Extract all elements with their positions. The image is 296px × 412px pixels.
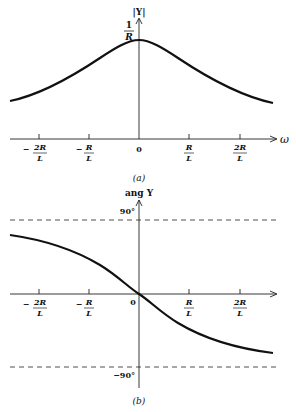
panel-a-y-axis-label: |Y|	[133, 7, 146, 18]
panel-b-caption: (b)	[133, 396, 146, 406]
svg-text:L: L	[185, 308, 192, 318]
svg-text:L: L	[36, 308, 43, 318]
svg-text:R: R	[85, 297, 93, 307]
svg-text:L: L	[236, 308, 243, 318]
svg-text:2R: 2R	[233, 142, 247, 152]
svg-text:R: R	[185, 297, 193, 307]
svg-text:L: L	[236, 153, 243, 163]
svg-text:−: −	[76, 299, 83, 309]
panel-b-tick-label: − 2R L	[23, 297, 47, 318]
panel-b-tick-label: − R L	[76, 297, 94, 318]
svg-text:R: R	[185, 142, 193, 152]
svg-text:0: 0	[130, 297, 136, 307]
svg-text:L: L	[36, 153, 43, 163]
figure: |Y| 1 R ω − 2R L − R L 0 R	[0, 0, 296, 412]
svg-text:L: L	[85, 153, 92, 163]
svg-text:−: −	[76, 144, 83, 154]
panel-b-lower-asymptote-label: −90°	[113, 370, 135, 380]
panel-b-tick-label: 0	[130, 297, 136, 307]
panel-a-tick-label: − R L	[76, 142, 94, 163]
svg-text:0: 0	[136, 144, 142, 154]
panel-a-tick-label: − 2R L	[23, 142, 47, 163]
panel-a-tick-label: R L	[184, 142, 194, 163]
panel-a-peak-numerator: 1	[126, 20, 132, 30]
panel-b-upper-asymptote-label: 90°	[120, 206, 135, 216]
svg-text:L: L	[85, 308, 92, 318]
svg-text:−: −	[23, 144, 30, 154]
svg-text:2R: 2R	[33, 142, 47, 152]
panel-b-phase-plot: ang Y 90° −90° − 2R L − R L 0	[10, 188, 277, 406]
panel-a-magnitude-plot: |Y| 1 R ω − 2R L − R L 0 R	[10, 7, 289, 183]
panel-a-tick-label: 2R L	[233, 142, 247, 163]
panel-a-caption: (a)	[133, 173, 146, 183]
svg-text:R: R	[85, 142, 93, 152]
panel-a-tick-label: 0	[136, 144, 142, 154]
svg-text:L: L	[185, 153, 192, 163]
svg-text:2R: 2R	[33, 297, 47, 307]
svg-text:2R: 2R	[233, 297, 247, 307]
panel-a-magnitude-curve	[10, 40, 273, 103]
panel-b-tick-label: 2R L	[233, 297, 247, 318]
panel-a-x-axis-label: ω	[280, 133, 289, 146]
panel-b-y-axis-label: ang Y	[125, 188, 154, 198]
svg-text:−: −	[23, 299, 30, 309]
panel-b-tick-label: R L	[184, 297, 194, 318]
